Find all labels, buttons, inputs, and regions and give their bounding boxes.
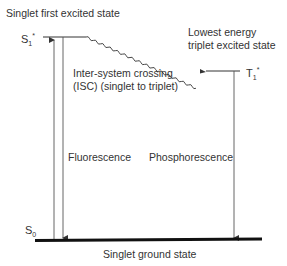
t1-superscript: * bbox=[257, 66, 260, 73]
s1-superscript: * bbox=[32, 32, 35, 39]
s1-symbol: S1* bbox=[21, 30, 35, 50]
t1-letter: T bbox=[246, 67, 253, 79]
fluorescence-label: Fluorescence bbox=[68, 151, 131, 163]
s0-energy-level bbox=[35, 239, 262, 241]
s0-description: Singlet ground state bbox=[103, 248, 196, 260]
t1-subscript: 1 bbox=[253, 74, 257, 81]
s1-subscript: 1 bbox=[28, 40, 32, 47]
s0-subscript: 0 bbox=[32, 231, 36, 238]
s0-symbol: S0 bbox=[25, 224, 36, 241]
isc-label-line2: (ISC) (singlet to triplet) bbox=[73, 80, 178, 92]
isc-label-line1: Inter-system crossing bbox=[73, 67, 173, 79]
phosphorescence-label: Phosphorescence bbox=[149, 151, 233, 163]
t1-description-line1: Lowest energy bbox=[188, 26, 256, 38]
t1-description-line2: triplet excited state bbox=[188, 39, 276, 51]
t1-symbol: T1* bbox=[246, 64, 259, 84]
s1-description: Singlet first excited state bbox=[6, 7, 120, 19]
